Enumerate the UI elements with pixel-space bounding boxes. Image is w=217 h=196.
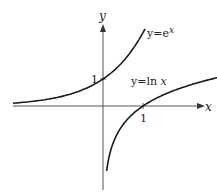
x-axis-arrow-icon <box>197 103 205 109</box>
y-tick-label: 1 <box>91 73 98 86</box>
x-tick-label: 1 <box>140 112 147 125</box>
function-graph: y x 1 1 y=ex y=ln x <box>0 0 217 196</box>
ln-curve-label: y=ln x <box>130 75 168 88</box>
exp-curve-label: y=ex <box>146 25 174 40</box>
y-axis-arrow-icon <box>100 24 106 32</box>
exp-curve <box>13 29 145 103</box>
y-axis-label: y <box>98 9 106 23</box>
x-axis-label: x <box>205 100 212 114</box>
